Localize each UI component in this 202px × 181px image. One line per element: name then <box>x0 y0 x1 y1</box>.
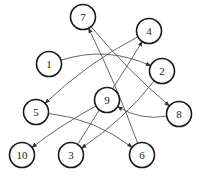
node-8[interactable]: 8 <box>167 102 192 127</box>
node-label: 5 <box>33 106 39 118</box>
node-9[interactable]: 9 <box>95 88 120 113</box>
node-4[interactable]: 4 <box>137 19 162 44</box>
node-6[interactable]: 6 <box>130 143 155 168</box>
edges-layer <box>32 27 170 148</box>
node-label: 10 <box>17 149 29 161</box>
node-2[interactable]: 2 <box>150 59 175 84</box>
edge-2-to-3 <box>81 81 154 148</box>
node-label: 1 <box>46 58 52 70</box>
edge-8-to-9 <box>118 107 167 118</box>
node-label: 4 <box>146 25 152 37</box>
node-5[interactable]: 5 <box>24 100 49 125</box>
node-label: 7 <box>80 11 86 23</box>
node-7[interactable]: 7 <box>71 5 96 30</box>
node-1[interactable]: 1 <box>37 52 62 77</box>
graph-diagram: 12345678910 <box>0 0 202 181</box>
node-label: 2 <box>159 65 165 77</box>
nodes-layer: 12345678910 <box>10 5 192 168</box>
node-3[interactable]: 3 <box>59 143 84 168</box>
node-10[interactable]: 10 <box>10 143 35 168</box>
node-label: 6 <box>139 149 145 161</box>
node-label: 9 <box>104 94 110 106</box>
node-label: 3 <box>68 149 74 161</box>
node-label: 8 <box>176 108 182 120</box>
